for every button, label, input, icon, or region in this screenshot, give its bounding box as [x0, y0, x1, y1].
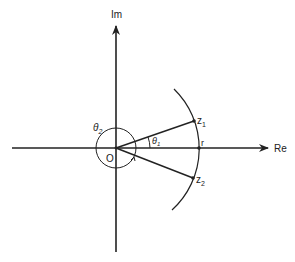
real-axis-label: Re	[274, 143, 287, 154]
origin-label: O	[106, 153, 114, 164]
complex-plane-diagram: Im Re O r z1 z2 θ1 θ2	[0, 0, 295, 262]
imag-axis-label: Im	[111, 9, 122, 20]
radius-label: r	[201, 138, 204, 148]
z2-label: z2	[196, 174, 205, 187]
theta2-label: θ2	[93, 122, 102, 135]
point-z2	[191, 176, 195, 180]
ray-z2	[116, 148, 193, 178]
point-z1	[192, 119, 196, 123]
z1-label: z1	[197, 115, 206, 128]
theta1-label: θ1	[152, 136, 160, 147]
theta1-angle-arc	[148, 137, 150, 148]
radius-arc	[172, 89, 199, 210]
origin-point	[115, 147, 118, 150]
